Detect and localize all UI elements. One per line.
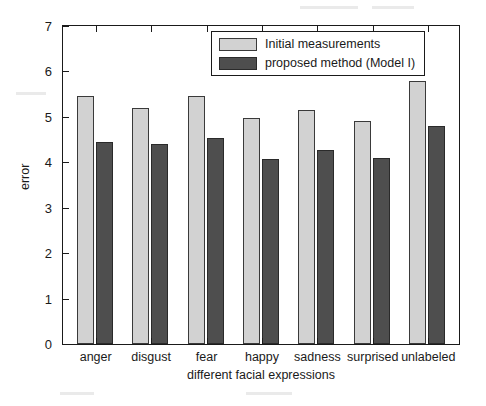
- bar: [188, 96, 205, 344]
- legend-swatch-initial-measurements: [219, 38, 257, 51]
- y-axis-tick-label: 0: [45, 337, 52, 352]
- x-axis-tick-top: [151, 26, 152, 32]
- x-axis-tick: [96, 338, 97, 344]
- x-axis-tick-top: [96, 26, 97, 32]
- x-axis-tick: [428, 338, 429, 344]
- scan-speckle: [372, 6, 414, 9]
- x-axis-tick-top: [373, 26, 374, 32]
- y-axis-tick: [63, 253, 69, 254]
- y-axis-tick-label: 5: [45, 109, 52, 124]
- y-axis-tick: [63, 71, 69, 72]
- x-axis-tick-label: sadness: [294, 350, 341, 364]
- y-axis-tick-label: 7: [45, 19, 52, 34]
- legend-label: proposed method (Model I): [265, 56, 415, 70]
- figure-canvas: error different facial expressions Initi…: [0, 0, 486, 406]
- y-axis-tick-label: 6: [45, 64, 52, 79]
- x-axis-tick-label: disgust: [131, 350, 171, 364]
- x-axis-tick-top: [317, 26, 318, 32]
- y-axis-tick-label: 3: [45, 200, 52, 215]
- bar: [428, 126, 445, 344]
- bar: [262, 159, 279, 344]
- y-axis-tick: [63, 26, 69, 27]
- y-axis-label: error: [18, 164, 32, 190]
- bar: [151, 144, 168, 344]
- y-axis-tick: [63, 162, 69, 163]
- x-axis-tick-label: unlabeled: [401, 350, 455, 364]
- x-axis-tick-top: [262, 26, 263, 32]
- bar: [298, 110, 315, 344]
- legend-item: Initial measurements: [219, 37, 415, 51]
- bar: [96, 142, 113, 344]
- bar-group: [122, 26, 177, 344]
- bar: [317, 150, 334, 344]
- x-axis-tick-top: [207, 26, 208, 32]
- x-axis-tick: [207, 338, 208, 344]
- y-axis-tick-label: 4: [45, 155, 52, 170]
- bar: [207, 138, 224, 344]
- x-axis-tick: [317, 338, 318, 344]
- y-axis-tick-label: 1: [45, 291, 52, 306]
- scan-speckle: [246, 392, 292, 395]
- legend-swatch-proposed-method: [219, 57, 257, 70]
- x-axis-tick-label: surprised: [347, 350, 398, 364]
- bar: [77, 96, 94, 344]
- scan-speckle: [300, 6, 358, 9]
- x-axis-tick-label: fear: [196, 350, 218, 364]
- scan-speckle: [60, 392, 94, 395]
- scan-speckle: [16, 92, 46, 95]
- bar: [354, 121, 371, 344]
- x-axis-tick-top: [428, 26, 429, 32]
- y-axis-tick: [63, 208, 69, 209]
- y-axis-tick: [63, 117, 69, 118]
- bar: [243, 118, 260, 344]
- y-axis-tick-label: 2: [45, 246, 52, 261]
- legend-label: Initial measurements: [265, 37, 380, 51]
- legend-item: proposed method (Model I): [219, 56, 415, 70]
- plot-area: different facial expressions Initial mea…: [62, 25, 460, 345]
- x-axis-tick-label: anger: [80, 350, 112, 364]
- x-axis-tick-label: happy: [245, 350, 279, 364]
- legend: Initial measurements proposed method (Mo…: [211, 31, 425, 76]
- x-axis-label: different facial expressions: [187, 368, 335, 382]
- bar: [132, 108, 149, 344]
- x-axis-tick: [151, 338, 152, 344]
- x-axis-tick: [262, 338, 263, 344]
- bar-group: [67, 26, 122, 344]
- x-axis-tick: [373, 338, 374, 344]
- bar: [373, 158, 390, 344]
- y-axis-tick: [63, 299, 69, 300]
- bar: [409, 81, 426, 344]
- y-axis-tick: [63, 344, 69, 345]
